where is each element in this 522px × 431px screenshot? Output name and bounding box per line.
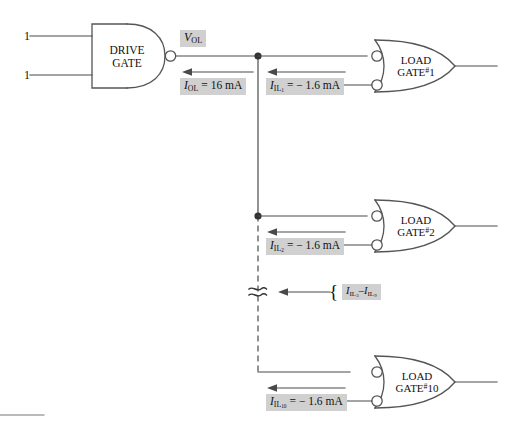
load-gate-1-current-sub-index: 1 xyxy=(281,87,284,93)
current-arrow-il1-head xyxy=(267,68,277,76)
drive-gate-label: DRIVE GATE xyxy=(96,44,158,70)
load-gate-1-input-bubble-top xyxy=(372,51,382,61)
load-gate-10-number: 10 xyxy=(428,382,439,394)
output-current-label: IOL= 16 mA xyxy=(180,78,246,95)
load-gate-1-number: 1 xyxy=(429,66,435,78)
load-gate-10-label-line2: GATE#10 xyxy=(383,382,451,394)
break-squiggle-lower xyxy=(249,294,267,296)
drive-gate-label-line1: DRIVE xyxy=(96,44,158,57)
break-annotation-brace: { xyxy=(329,281,338,303)
load-gate-1-label: LOAD GATE#1 xyxy=(385,54,447,79)
load-gate-2-number: 2 xyxy=(429,226,435,238)
break-annotation-sub-from: IL3 xyxy=(350,290,359,298)
load-gate-10-label-line1: LOAD xyxy=(383,370,451,382)
drive-gate-input-label-2: 1 xyxy=(24,68,30,83)
current-arrow-iol-head xyxy=(182,68,192,76)
current-arrow-il10-head xyxy=(267,384,277,392)
load-gate-2-current-value: = − 1.6 mA xyxy=(287,239,340,251)
output-current-value: = 16 mA xyxy=(201,79,242,91)
load-gate-10-current-subscript: IL10 xyxy=(274,400,287,409)
load-gate-1-current-label: IIL1= − 1.6 mA xyxy=(266,78,344,95)
load-gate-1-label-line1: LOAD xyxy=(385,54,447,66)
load-gate-10-label: LOAD GATE#10 xyxy=(383,370,451,395)
break-annotation-sub-to: IL9 xyxy=(367,290,376,298)
output-current-subscript: OL xyxy=(188,84,198,93)
load-gate-1-current-value: = − 1.6 mA xyxy=(287,79,340,91)
load-gate-2-label-word: GATE xyxy=(397,226,425,238)
load-gate-1-current-subscript: IL1 xyxy=(274,84,284,93)
load-gate-10-input-bubble-top xyxy=(372,367,382,377)
load-gate-2-input-bubble-top xyxy=(372,211,382,221)
drive-gate-label-line2: GATE xyxy=(96,57,158,70)
load-gate-2-label-line2: GATE#2 xyxy=(385,226,447,238)
drive-gate-input-label-1: 1 xyxy=(24,29,30,44)
output-voltage-label: VOL xyxy=(180,30,206,47)
load-gate-2-current-sub-index: 2 xyxy=(281,247,284,253)
load-gate-10-current-label: IIL10= − 1.6 mA xyxy=(266,394,347,411)
load-gate-10-label-word: GATE xyxy=(395,382,423,394)
load-gate-2-label-line1: LOAD xyxy=(385,214,447,226)
load-gate-2-input-bubble-bottom xyxy=(372,240,382,250)
output-voltage-subscript: OL xyxy=(191,36,202,45)
break-annotation-index-to: 9 xyxy=(374,293,376,298)
load-gate-2-current-subscript: IL2 xyxy=(274,244,284,253)
load-gate-10-current-value: = − 1.6 mA xyxy=(290,395,343,407)
drive-gate-bubble xyxy=(165,51,175,61)
break-annotation-label: IIL3–IIL9 xyxy=(342,284,381,300)
load-gate-1-input-bubble-bottom xyxy=(372,80,382,90)
current-arrow-il2-head xyxy=(267,228,277,236)
load-gate-1-label-line2: GATE#1 xyxy=(385,66,447,78)
load-gate-10-input-bubble-bottom xyxy=(372,396,382,406)
circuit-diagram: 1 1 DRIVE GATE VOL IOL= 16 mA IIL1= − 1.… xyxy=(0,0,522,431)
load-gate-2-current-label: IIL2= − 1.6 mA xyxy=(266,238,344,255)
load-gate-1-label-word: GATE xyxy=(397,66,425,78)
load-gate-2-label: LOAD GATE#2 xyxy=(385,214,447,239)
load-gate-10-current-sub-index: 10 xyxy=(281,403,286,409)
break-annotation-arrow-head xyxy=(278,288,288,296)
